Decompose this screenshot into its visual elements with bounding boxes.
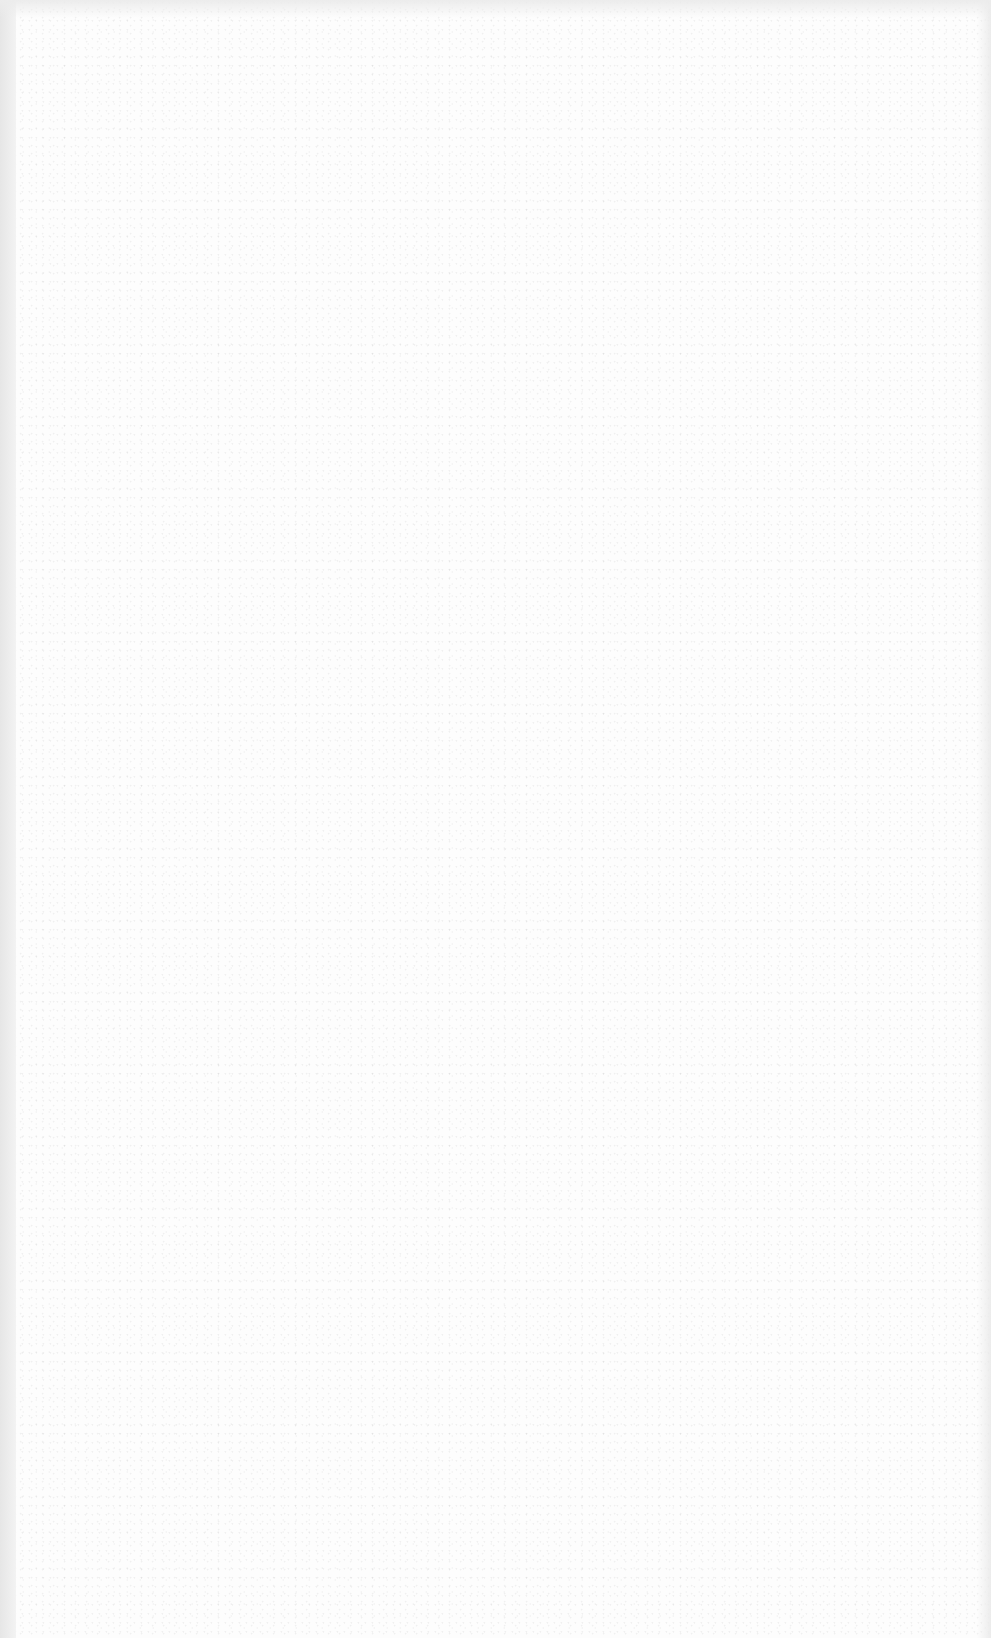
scan-top-edge: [0, 0, 991, 18]
scan-left-margin: [0, 0, 16, 1638]
scan-right-margin: [977, 0, 991, 1638]
document-page: [0, 0, 991, 1638]
